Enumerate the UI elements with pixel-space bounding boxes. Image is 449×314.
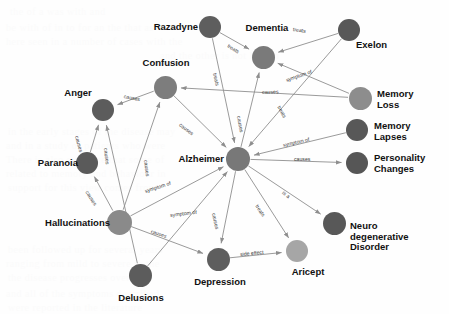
diagram-canvas: the of a was with andbe with of in to fo… [0,0,449,314]
graph-node-delusions[interactable] [129,264,152,287]
graph-node-razadyne[interactable] [199,16,221,38]
graph-node-aricept[interactable] [286,240,308,262]
graph-node-personality[interactable] [346,152,368,174]
edge-label-alzheimer-personality: causes [294,156,310,162]
edge-paranoia-to-anger [90,125,98,152]
graph-node-confusion[interactable] [154,76,177,99]
graph-node-memory_laps[interactable] [346,119,368,141]
graph-node-depression[interactable] [207,248,230,271]
edge-halluc-to-paranoia [94,177,112,211]
edge-delusions-to-anger [106,125,137,263]
edge-alzheimer-to-aricept [245,170,289,238]
node-label-razadyne: Razadyne [148,22,198,33]
edge-halluc-to-depression [131,227,203,254]
node-label-aricept: Aricept [285,267,331,278]
node-label-memory_laps: Memory Lapses [374,121,436,142]
graph-node-anger[interactable] [92,99,114,121]
edge-alzheimer-to-dementia [241,73,259,147]
graph-node-paranoia[interactable] [76,152,98,174]
node-label-delusions: Delusions [112,293,170,304]
node-label-halluc: Hallucinations [28,218,110,229]
graph-node-dementia[interactable] [252,46,275,69]
graph-node-halluc[interactable] [107,210,132,235]
graph-node-exelon[interactable] [338,19,360,41]
node-label-depression: Depression [189,277,251,288]
node-label-paranoia: Paranoia [26,158,78,169]
node-label-dementia: Dementia [241,23,293,34]
edge-exelon-to-dementia [278,33,338,52]
node-label-alzheimer: Alzheimer [166,154,224,165]
node-label-confusion: Confusion [137,58,195,69]
graph-node-alzheimer[interactable] [226,147,250,171]
node-label-personality: Personality Changes [374,153,440,174]
graph-node-memory_loss[interactable] [349,87,372,110]
edge-halluc-to-confusion [123,102,160,210]
node-label-anger: Anger [57,88,99,99]
edge-alzheimer-to-depression [221,171,235,243]
node-label-neuro: Neuro degenerative Disorder [350,221,422,253]
node-label-memory_loss: Memory Loss [377,89,439,110]
edge-label-memory_loss-confusion: causes [262,88,279,95]
node-label-exelon: Exelon [356,40,401,51]
graph-node-neuro[interactable] [323,212,346,235]
